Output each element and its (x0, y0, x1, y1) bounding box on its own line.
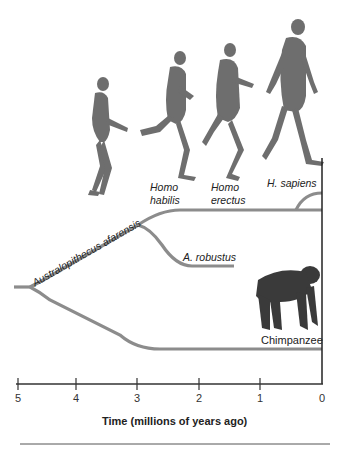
label-homo-habilis-line1: Homo (150, 181, 180, 194)
label-homo-habilis: Homo habilis (150, 181, 180, 207)
label-a-robustus: A. robustus (183, 251, 236, 264)
axis-title: Time (millions of years ago) (102, 415, 247, 427)
australopithecus-figure (88, 77, 128, 196)
label-chimpanzee: Chimpanzee (261, 334, 323, 346)
label-homo-erectus-line1: Homo (211, 181, 245, 194)
label-homo-erectus-line2: erectus (211, 194, 245, 207)
label-homo-erectus: Homo erectus (211, 181, 245, 207)
tick-label-5: 5 (15, 392, 21, 404)
tick-label-2: 2 (196, 392, 202, 404)
chimpanzee-figure (256, 266, 320, 330)
label-homo-habilis-line2: habilis (150, 194, 180, 207)
phylogeny-diagram (0, 0, 343, 451)
homo-branch (138, 210, 322, 225)
tick-label-0: 0 (319, 392, 325, 404)
homo-habilis-figure (140, 51, 196, 181)
homo-sapiens-figure (262, 19, 324, 166)
sapiens-branch (296, 193, 322, 210)
tick-label-4: 4 (73, 392, 79, 404)
homo-erectus-figure (202, 43, 254, 181)
tick-label-1: 1 (257, 392, 263, 404)
tick-label-3: 3 (134, 392, 140, 404)
label-h-sapiens: H. sapiens (267, 177, 317, 190)
